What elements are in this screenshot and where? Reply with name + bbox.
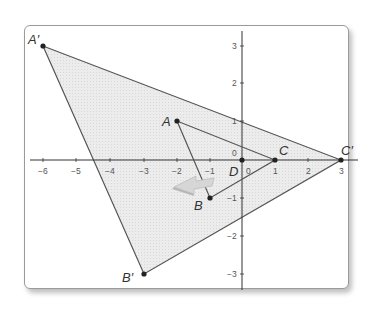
x-tick-label: −2 <box>172 166 182 176</box>
point-b <box>207 195 212 200</box>
x-tick-label: −4 <box>105 166 115 176</box>
point-b-prime <box>141 271 146 276</box>
label-b-prime: B′ <box>122 270 134 285</box>
point-c <box>272 157 277 162</box>
label-d: D <box>229 164 238 179</box>
y-tick-label: 0 <box>232 148 237 158</box>
y-tick-label: −2 <box>227 231 237 241</box>
x-tick-label: 1 <box>273 166 278 176</box>
point-a <box>174 118 179 123</box>
label-a: A <box>161 114 171 129</box>
label-c-prime: C′ <box>341 143 353 158</box>
y-tick-label: 1 <box>232 116 237 126</box>
x-tick-label: −1 <box>205 166 215 176</box>
x-tick-label: 2 <box>306 166 311 176</box>
label-b: B <box>194 198 203 213</box>
x-tick-label: −3 <box>139 166 149 176</box>
x-tick-label: 3 <box>339 166 344 176</box>
x-tick-label: −6 <box>38 166 48 176</box>
y-tick-label: −3 <box>227 269 237 279</box>
diagram-stage: −6 −5 −4 −3 −2 −1 0 1 2 3 3 2 1 0 −1 −2 … <box>0 0 379 312</box>
point-a-prime <box>40 43 45 48</box>
label-a-prime: A′ <box>27 32 40 47</box>
point-d <box>239 157 244 162</box>
y-tick-label: 2 <box>232 78 237 88</box>
coordinate-plane: −6 −5 −4 −3 −2 −1 0 1 2 3 3 2 1 0 −1 −2 … <box>0 0 379 312</box>
point-c-prime <box>338 157 343 162</box>
y-tick-label: 3 <box>232 41 237 51</box>
x-tick-label: −5 <box>71 166 81 176</box>
label-c: C <box>279 143 289 158</box>
y-tick-label: −1 <box>227 193 237 203</box>
